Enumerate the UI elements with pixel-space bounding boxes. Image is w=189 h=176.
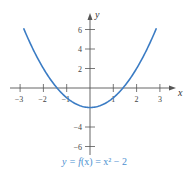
caption-rest: (x) = x² − 2 bbox=[81, 156, 127, 167]
x-axis-arrow-icon bbox=[169, 86, 176, 91]
y-tick-label: −6 bbox=[73, 143, 82, 152]
x-tick-label: 2 bbox=[135, 95, 139, 104]
y-tick-label: −4 bbox=[73, 123, 82, 132]
chart-caption: y = f(x) = x² − 2 bbox=[0, 156, 189, 167]
chart-canvas: −3−2−1123642−4−6xy bbox=[0, 0, 189, 176]
x-axis-label: x bbox=[177, 87, 183, 98]
y-axis-arrow-icon bbox=[88, 13, 93, 20]
y-tick-label: 6 bbox=[78, 26, 82, 35]
y-tick-label: 2 bbox=[78, 65, 82, 74]
caption-y: y = bbox=[62, 156, 78, 167]
y-axis-label: y bbox=[94, 9, 100, 20]
x-tick-label: −3 bbox=[15, 95, 24, 104]
x-tick-label: −2 bbox=[38, 95, 47, 104]
y-tick-label: 4 bbox=[78, 45, 82, 54]
x-tick-label: 3 bbox=[158, 95, 162, 104]
